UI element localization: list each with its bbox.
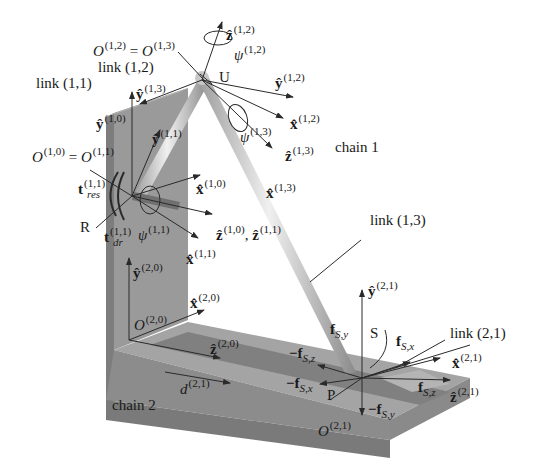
- label-x11: x̂(1,1): [186, 248, 216, 267]
- label-z21: ẑ(2,1): [450, 386, 479, 405]
- label-x20: x̂(2,0): [190, 292, 220, 311]
- label-o21: O(2,1): [318, 420, 351, 439]
- label-f-sy: fS,y: [330, 322, 348, 340]
- label-U: U: [219, 70, 230, 85]
- equals: =: [126, 43, 142, 59]
- label-R: R: [80, 220, 90, 235]
- o13-sup: (1,3): [154, 39, 175, 51]
- label-z10-z11: ẑ(1,0), ẑ(1,1): [216, 224, 281, 243]
- label-o12-eq-o13: O(1,2) = O(1,3): [93, 40, 175, 59]
- label-t-dr: t(1,1)dr: [104, 226, 123, 248]
- label-t-res: t(1,1)res: [78, 178, 100, 200]
- label-o20: O(2,0): [134, 314, 167, 333]
- label-chain2: chain 2: [112, 398, 156, 413]
- label-y10: ŷ(1,0): [96, 113, 126, 132]
- label-f-sz: fS,z: [418, 380, 436, 398]
- label-z13: ẑ(1,3): [285, 145, 314, 164]
- label-psi12: ψ(1,2): [234, 44, 265, 63]
- label-y21: ŷ(2,1): [368, 280, 398, 299]
- label-link-1-1: link (1,1): [36, 76, 92, 91]
- label-z20: ẑ(2,0): [210, 338, 239, 357]
- label-x13: x̂(1,3): [266, 182, 296, 201]
- label-neg-f-sx: −fS,x: [286, 376, 313, 394]
- label-link-2-1: link (2,1): [450, 326, 506, 341]
- label-d21: d(2,1): [180, 378, 210, 397]
- o12-symbol: O: [93, 43, 104, 59]
- label-x10: x̂(1,0): [196, 178, 226, 197]
- label-z12: ẑ(1,2): [226, 24, 255, 43]
- label-link-1-3: link (1,3): [370, 213, 426, 228]
- label-x12: x̂(1,2): [290, 113, 320, 132]
- label-o10-eq-o11: O(1,0) = O(1,1): [32, 146, 114, 165]
- label-P: P: [327, 388, 335, 403]
- label-psi13: ψ(1,3): [240, 126, 271, 145]
- label-chain1: chain 1: [335, 140, 379, 155]
- label-psi11: ψ(1,1): [138, 224, 169, 243]
- label-x21: x̂(2,1): [452, 352, 482, 371]
- label-link-1-2: link (1,2): [98, 60, 154, 75]
- label-y12: ŷ(1,2): [275, 72, 305, 91]
- label-S: S: [370, 326, 378, 341]
- label-y20: ŷ(2,0): [133, 262, 163, 281]
- o12-sup: (1,2): [105, 39, 126, 51]
- o13-symbol: O: [142, 43, 153, 59]
- label-neg-f-sy: −fS,y: [368, 402, 395, 420]
- label-f-sx: fS,x: [396, 334, 414, 352]
- label-neg-f-sz: −fS,z: [289, 346, 315, 364]
- label-y11: ŷ(1,1): [152, 128, 182, 147]
- label-y13: ŷ(1,3): [136, 83, 166, 102]
